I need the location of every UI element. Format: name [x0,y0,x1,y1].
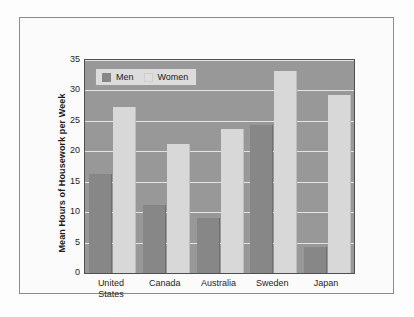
bar-women-united-states [113,107,136,273]
bar-men-australia [197,218,220,273]
bar-women-australia [221,129,244,273]
y-axis-tick-label: 15 [38,176,80,186]
y-axis-tick-label: 35 [38,54,80,64]
legend: Men Women [95,68,197,86]
y-axis-tick-label: 10 [38,206,80,216]
legend-swatch-men [102,73,111,82]
bar-men-sweden [250,125,273,273]
y-axis-title: Mean Hours of Housework per Week [57,63,67,283]
legend-swatch-women [144,73,153,82]
y-axis-tick-label: 25 [38,115,80,125]
legend-label-women: Women [158,72,189,82]
legend-item-men: Men [102,72,134,82]
gridline [85,90,354,91]
legend-item-women: Women [144,72,189,82]
y-axis-tick-label: 20 [38,145,80,155]
y-axis-tick-label: 0 [38,267,80,277]
figure-frame: Mean Hours of Housework per Week 0510152… [19,17,394,294]
bar-women-canada [167,144,190,273]
bar-women-sweden [274,71,297,273]
bar-men-japan [304,247,327,273]
legend-label-men: Men [116,72,134,82]
y-axis-tick-label: 30 [38,84,80,94]
figure: Mean Hours of Housework per Week 0510152… [0,0,414,317]
gridline [85,60,354,61]
bar-men-canada [143,205,166,273]
plot-area: Men Women [84,59,355,274]
y-axis-tick-label: 5 [38,237,80,247]
x-axis-tick-label: Japan [286,278,366,289]
bar-men-united-states [89,174,112,273]
bar-women-japan [328,95,351,273]
